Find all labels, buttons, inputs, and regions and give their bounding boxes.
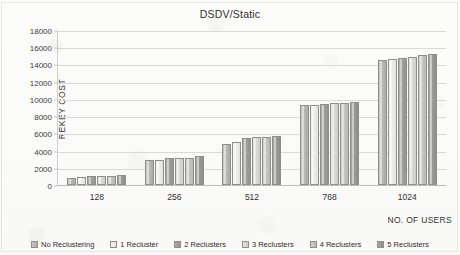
bar — [320, 104, 329, 185]
x-axis-tick-label: 512 — [245, 192, 259, 202]
legend-label: 4 Reclusters — [320, 240, 362, 249]
legend-item[interactable]: 2 Reclusters — [174, 240, 226, 249]
bar-group: 128 — [58, 30, 136, 185]
bar — [408, 57, 417, 185]
bar — [350, 102, 359, 185]
chart-title: DSDV/Static — [0, 8, 460, 20]
legend-label: 2 Reclusters — [184, 240, 226, 249]
x-axis-line — [58, 185, 446, 186]
bar — [97, 176, 106, 185]
legend-item[interactable]: No Reclustering — [31, 240, 94, 249]
bar — [310, 105, 319, 185]
bar — [398, 58, 407, 185]
y-axis-tick-label: 0 — [48, 182, 52, 191]
legend-label: 5 Reclusters — [387, 240, 429, 249]
y-axis-tick-label: 8000 — [34, 113, 52, 122]
y-axis-tick-label: 16000 — [30, 44, 52, 53]
legend-swatch-icon — [110, 241, 117, 248]
y-axis-tick-label: 6000 — [34, 130, 52, 139]
x-axis-tick-label: 256 — [167, 192, 181, 202]
bar — [232, 142, 241, 185]
legend-item[interactable]: 3 Reclusters — [242, 240, 294, 249]
bar-group: 256 — [136, 30, 214, 185]
bar — [242, 138, 251, 185]
legend-item[interactable]: 4 Reclusters — [310, 240, 362, 249]
bar — [145, 160, 154, 185]
y-axis-tick-mark — [54, 186, 58, 187]
y-axis-tick-label: 12000 — [30, 78, 52, 87]
bar — [195, 156, 204, 185]
x-axis-tick-label: 1024 — [398, 192, 417, 202]
bar — [87, 176, 96, 185]
y-axis-tick-label: 4000 — [34, 147, 52, 156]
bar — [117, 175, 126, 185]
bar — [340, 103, 349, 185]
legend-label: 3 Reclusters — [252, 240, 294, 249]
bar — [67, 178, 76, 185]
bar — [330, 103, 339, 185]
legend-swatch-icon — [242, 241, 249, 248]
chart-legend: No Reclustering1 Recluster2 Reclusters3 … — [0, 240, 460, 249]
legend-swatch-icon — [377, 241, 384, 248]
bar-group: 512 — [213, 30, 291, 185]
bar — [77, 177, 86, 185]
legend-label: 1 Recluster — [120, 240, 158, 249]
bar — [222, 144, 231, 185]
legend-swatch-icon — [310, 241, 317, 248]
bar — [300, 105, 309, 185]
plot-area: REKEY COST 02000400060008000100001200014… — [58, 31, 446, 186]
bar — [272, 136, 281, 185]
legend-swatch-icon — [31, 241, 38, 248]
bar — [388, 59, 397, 185]
bar — [418, 55, 427, 185]
y-axis-tick-label: 2000 — [34, 164, 52, 173]
bar — [185, 158, 194, 185]
y-axis-tick-label: 18000 — [30, 27, 52, 36]
y-axis-tick-label: 14000 — [30, 61, 52, 70]
bar — [378, 60, 387, 185]
x-axis-label: NO. OF USERS — [387, 215, 452, 225]
bar — [252, 137, 261, 185]
legend-label: No Reclustering — [41, 240, 94, 249]
legend-item[interactable]: 1 Recluster — [110, 240, 158, 249]
legend-swatch-icon — [174, 241, 181, 248]
x-axis-tick-label: 768 — [323, 192, 337, 202]
bar — [155, 160, 164, 185]
bar-group: 768 — [291, 30, 369, 185]
bar — [165, 158, 174, 185]
bar — [428, 54, 437, 185]
y-axis-tick-label: 10000 — [30, 95, 52, 104]
bar — [107, 176, 116, 185]
bar — [175, 158, 184, 185]
bar — [262, 137, 271, 185]
bar-group: 1024 — [368, 30, 446, 185]
x-axis-tick-label: 128 — [90, 192, 104, 202]
legend-item[interactable]: 5 Reclusters — [377, 240, 429, 249]
